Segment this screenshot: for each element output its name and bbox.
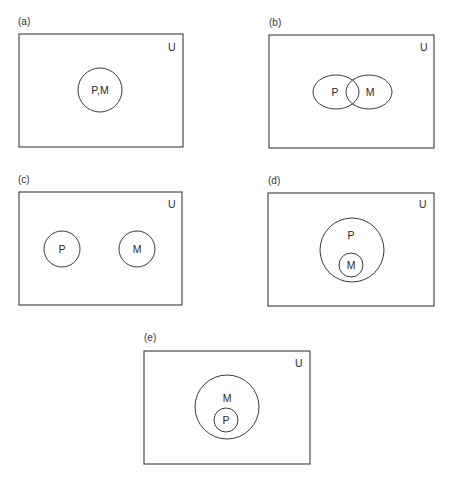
universe-rect	[269, 35, 434, 148]
panel-a: (a) U P,M	[18, 16, 183, 147]
universe-rect	[144, 351, 310, 464]
universe-label: U	[420, 41, 428, 53]
set-label-p: P	[347, 229, 354, 241]
panel-d: (d) U P M	[268, 175, 434, 306]
panel-label: (c)	[18, 174, 30, 185]
panel-c: (c) U P M	[18, 174, 182, 305]
panel-label: (a)	[18, 16, 30, 27]
universe-label: U	[168, 198, 176, 210]
venn-figure: (a) U P,M (b) U P M (c) U P M (d) U P M …	[0, 0, 449, 480]
universe-rect	[19, 192, 182, 305]
panel-b: (b) U P M	[269, 17, 434, 148]
universe-label: U	[419, 198, 427, 210]
panel-e: (e) U M P	[144, 332, 310, 464]
set-label-m: M	[223, 392, 232, 404]
set-label-p: P	[58, 243, 65, 255]
universe-label: U	[295, 357, 303, 369]
set-label-p: P	[222, 414, 229, 426]
set-label-m: M	[366, 86, 375, 98]
set-label-pm: P,M	[91, 84, 108, 96]
set-label-p: P	[331, 86, 338, 98]
set-circle-m	[195, 375, 259, 439]
panel-label: (d)	[268, 175, 280, 186]
panel-label: (b)	[269, 17, 281, 28]
set-circle-p	[320, 218, 384, 282]
universe-label: U	[168, 41, 176, 53]
panel-label: (e)	[144, 332, 156, 343]
universe-rect	[268, 193, 434, 306]
set-label-m: M	[133, 243, 142, 255]
set-label-m: M	[347, 259, 356, 271]
